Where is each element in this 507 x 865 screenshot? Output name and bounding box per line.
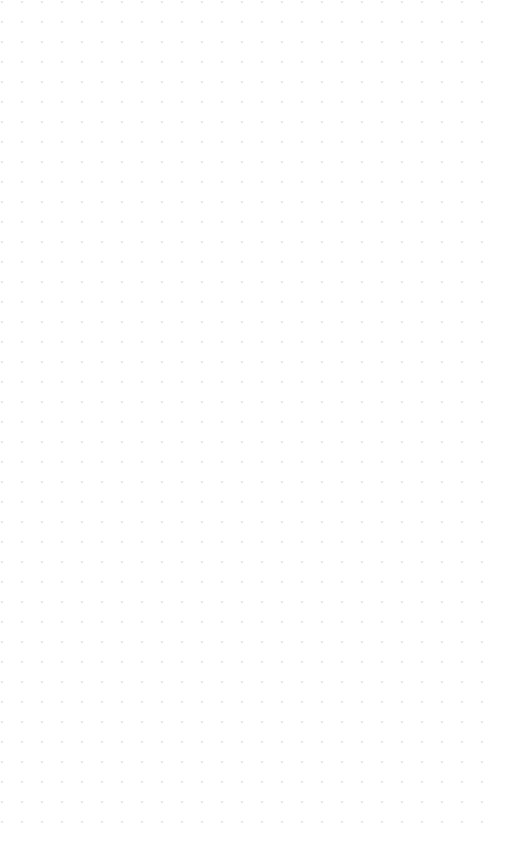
dot-grid-canvas[interactable] bbox=[0, 0, 507, 865]
page-root bbox=[0, 0, 507, 865]
canvas-content-layer bbox=[0, 0, 507, 865]
